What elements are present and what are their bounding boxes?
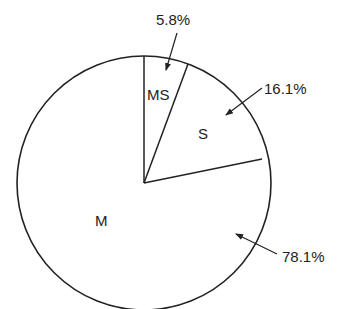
slice-label-ms: MS xyxy=(147,86,170,103)
slice-label-m: M xyxy=(95,212,108,229)
value-label-ms: 5.8% xyxy=(156,11,190,28)
pie-chart: MS S M 5.8% 16.1% 78.1% xyxy=(0,0,354,309)
value-label-s: 16.1% xyxy=(264,80,307,97)
slice-label-s: S xyxy=(198,125,208,142)
value-label-m: 78.1% xyxy=(282,248,325,265)
